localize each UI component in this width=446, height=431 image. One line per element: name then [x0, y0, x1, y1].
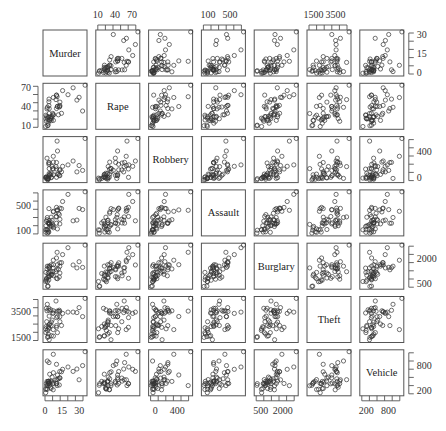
data-point: [170, 218, 174, 222]
data-point: [177, 263, 181, 267]
data-point: [308, 167, 312, 171]
panel-assault-vs-murder: [43, 190, 87, 236]
tick-label: 30: [417, 29, 427, 40]
panel-robbery-vs-theft: [307, 136, 351, 182]
data-point: [163, 306, 167, 310]
panel-rape-vs-theft: [307, 83, 351, 129]
data-point: [133, 159, 137, 163]
panel-rape-vs-rape: Rape: [96, 83, 140, 129]
data-point: [255, 228, 259, 232]
panel-theft-vs-vehicle: [360, 296, 404, 342]
data-point: [172, 328, 176, 332]
data-point: [321, 362, 325, 366]
data-point: [226, 36, 230, 40]
panel-theft-vs-assault: [201, 296, 245, 342]
panel-frame: [254, 190, 298, 236]
data-point: [51, 352, 55, 356]
data-point: [162, 253, 166, 257]
panel-rape-vs-murder: [43, 83, 87, 129]
data-point: [239, 246, 243, 250]
data-point: [133, 42, 137, 46]
data-point: [124, 154, 128, 158]
data-point: [116, 227, 120, 231]
data-point: [125, 250, 129, 254]
data-point: [388, 60, 392, 64]
data-point: [287, 139, 291, 143]
panel-robbery-vs-burglary: [254, 136, 298, 182]
data-point: [172, 352, 176, 356]
variable-label-theft: Theft: [318, 314, 341, 325]
data-point: [210, 338, 214, 342]
data-point: [317, 154, 321, 158]
data-point: [126, 60, 130, 64]
data-point: [214, 38, 218, 42]
data-point: [232, 367, 236, 371]
data-point: [186, 59, 190, 63]
panel-theft-vs-robbery: [149, 296, 193, 342]
data-point: [123, 68, 127, 72]
data-point: [224, 139, 228, 143]
data-point: [206, 59, 210, 63]
data-point: [186, 95, 190, 99]
data-point: [224, 364, 228, 368]
data-point: [133, 219, 137, 223]
data-point: [163, 246, 167, 250]
data-point: [167, 369, 171, 373]
panel-murder-vs-murder: Murder: [43, 30, 87, 76]
data-point: [54, 362, 58, 366]
panel-burglary-vs-murder: [43, 243, 87, 289]
data-point: [274, 118, 278, 122]
data-point: [333, 199, 337, 203]
data-point: [330, 149, 334, 153]
tick-label: 1500: [304, 9, 324, 20]
data-point: [54, 256, 58, 260]
data-point: [223, 352, 227, 356]
data-point: [51, 154, 55, 158]
data-point: [102, 264, 106, 268]
data-point: [222, 160, 226, 164]
data-point: [111, 32, 115, 36]
tick-label: 2000: [417, 253, 437, 264]
data-point: [325, 227, 329, 231]
tick-label: 15: [57, 405, 67, 416]
data-point: [125, 139, 129, 143]
data-point: [368, 250, 372, 254]
data-point: [45, 302, 49, 306]
panel-murder-vs-theft: [307, 30, 351, 76]
data-point: [58, 320, 62, 324]
data-point: [47, 314, 51, 318]
data-point: [116, 149, 120, 153]
variable-label-murder: Murder: [49, 48, 81, 59]
data-point: [397, 95, 401, 99]
variable-label-vehicle: Vehicle: [366, 367, 398, 378]
data-point: [383, 98, 387, 102]
data-point: [102, 372, 106, 376]
tick-label: 30: [74, 405, 84, 416]
tick-label: 1500: [11, 332, 31, 343]
data-point: [50, 375, 54, 379]
data-point: [321, 106, 325, 110]
data-point: [81, 168, 85, 172]
data-point: [365, 215, 369, 219]
data-point: [361, 124, 365, 128]
data-point: [282, 60, 286, 64]
data-point: [285, 53, 289, 57]
data-point: [314, 59, 318, 63]
panel-burglary-vs-assault: [201, 243, 245, 289]
data-point: [163, 192, 167, 196]
tick-label: 10: [93, 9, 103, 20]
tick-label: 800: [381, 405, 396, 416]
data-point: [61, 253, 65, 257]
data-point: [203, 270, 207, 274]
data-point: [45, 156, 49, 160]
tick-label: 400: [417, 146, 432, 157]
data-point: [131, 253, 135, 257]
tick-label: 800: [417, 360, 432, 371]
data-point: [325, 168, 329, 172]
panel-robbery-vs-assault: [201, 136, 245, 182]
panel-frame: [360, 190, 404, 236]
panel-burglary-vs-vehicle: [360, 243, 404, 289]
data-point: [77, 163, 81, 167]
data-point: [186, 250, 190, 254]
data-point: [54, 299, 58, 303]
